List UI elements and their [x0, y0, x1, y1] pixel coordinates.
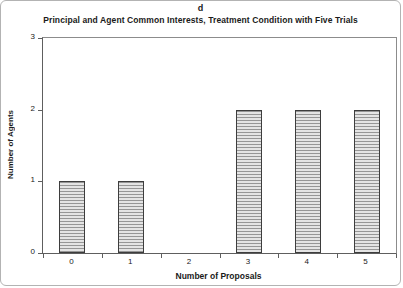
x-axis-title: Number of Proposals [42, 271, 395, 281]
x-tick-mark-1 [102, 254, 103, 258]
chart-figure: d Principal and Agent Common Interests, … [0, 0, 401, 286]
y-tick-mark-1 [38, 181, 42, 182]
y-axis-title: Number of Agents [4, 37, 16, 252]
chart-title: Principal and Agent Common Interests, Tr… [1, 15, 400, 25]
y-tick-mark-0 [38, 253, 42, 254]
y-tick-mark-3 [38, 38, 42, 39]
y-tick-label-0: 0 [11, 247, 35, 256]
x-tick-mark-0 [43, 254, 44, 258]
bar-proposals-5 [354, 110, 380, 253]
bar-proposals-1 [118, 181, 144, 253]
bar-proposals-4 [295, 110, 321, 253]
y-tick-label-3: 3 [11, 32, 35, 41]
x-tick-mark-2 [161, 254, 162, 258]
x-tick-mark-3 [220, 254, 221, 258]
bar-proposals-3 [236, 110, 262, 253]
y-tick-mark-2 [38, 110, 42, 111]
panel-label: d [1, 3, 400, 13]
x-tick-mark-5 [337, 254, 338, 258]
y-tick-label-2: 2 [11, 104, 35, 113]
bar-proposals-0 [59, 181, 85, 253]
x-tick-label-2: 2 [169, 257, 209, 266]
x-tick-label-5: 5 [346, 257, 386, 266]
plot-area [42, 37, 397, 254]
x-tick-label-0: 0 [51, 257, 91, 266]
x-tick-mark-6 [396, 254, 397, 258]
x-tick-label-3: 3 [228, 257, 268, 266]
x-tick-label-4: 4 [287, 257, 327, 266]
y-tick-label-1: 1 [11, 175, 35, 184]
x-tick-label-1: 1 [110, 257, 150, 266]
x-tick-mark-4 [278, 254, 279, 258]
